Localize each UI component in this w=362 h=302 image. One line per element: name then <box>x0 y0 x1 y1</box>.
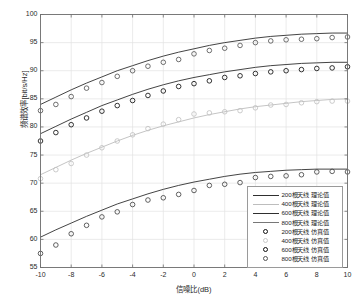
legend-marker-swatch <box>253 227 279 236</box>
series-marker <box>238 43 243 48</box>
legend-line-glyph <box>253 204 279 205</box>
legend-label: 800根天线 仿真值 <box>282 254 329 263</box>
x-tick-label: 4 <box>243 271 267 278</box>
x-tick-label: 6 <box>274 271 298 278</box>
y-tick-label: 75 <box>14 151 38 158</box>
series-marker <box>330 35 335 40</box>
series-marker <box>146 64 151 69</box>
legend-line-glyph <box>253 222 279 223</box>
series-marker <box>146 93 151 98</box>
legend-circle-glyph <box>263 238 268 243</box>
legend-circle-glyph <box>263 247 268 252</box>
x-tick-label: 8 <box>305 271 329 278</box>
y-tick-label: 95 <box>14 38 38 45</box>
legend-marker-swatch <box>253 246 279 255</box>
legend-label: 600根天线 仿真值 <box>282 245 329 254</box>
legend-line-swatch <box>253 191 279 200</box>
y-tick-label: 90 <box>14 66 38 73</box>
legend-row: 600根天线 仿真值 <box>248 246 342 255</box>
legend-row: 400根天线 仿真值 <box>248 237 342 246</box>
x-tick-label: -10 <box>29 271 53 278</box>
series-marker <box>207 183 212 188</box>
series-marker <box>299 172 304 177</box>
x-tick-label: 2 <box>213 271 237 278</box>
series-marker <box>268 174 273 179</box>
y-tick-label: 80 <box>14 122 38 129</box>
series-marker <box>146 198 151 203</box>
y-tick-label: 85 <box>14 94 38 101</box>
legend-circle-glyph <box>263 256 268 261</box>
legend-label: 800根天线 理论值 <box>282 218 329 227</box>
series-marker <box>115 103 120 108</box>
series-marker <box>54 102 59 107</box>
legend-circle-glyph <box>263 229 268 234</box>
legend-row: 200根天线 理论值 <box>248 191 342 200</box>
legend-marker-swatch <box>253 237 279 246</box>
legend-label: 200根天线 仿真值 <box>282 227 329 236</box>
series-marker <box>115 210 120 215</box>
series-marker <box>330 66 335 71</box>
legend-line-glyph <box>253 195 279 196</box>
x-tick-label: 10 <box>336 271 360 278</box>
series-marker <box>330 169 335 174</box>
series-marker <box>238 73 243 78</box>
legend-marker-swatch <box>253 255 279 264</box>
legend-line-swatch <box>253 200 279 209</box>
series-marker <box>299 100 304 105</box>
series-marker <box>176 84 181 89</box>
series-marker <box>176 57 181 62</box>
legend-row: 800根天线 仿真值 <box>248 255 342 264</box>
figure-canvas: 频谱效率[bit/s/Hz] 信噪比(dB) 55606570758085909… <box>0 0 362 302</box>
legend-label: 600根天线 理论值 <box>282 208 329 217</box>
series-marker <box>207 48 212 53</box>
series-marker <box>207 79 212 84</box>
series-marker <box>54 167 59 172</box>
x-tick-label: 0 <box>182 271 206 278</box>
x-tick-label: -8 <box>59 271 83 278</box>
legend-line-swatch <box>253 209 279 218</box>
legend-row: 200根天线 仿真值 <box>248 227 342 236</box>
series-marker <box>84 223 89 228</box>
legend-label: 400根天线 理论值 <box>282 199 329 208</box>
y-tick-label: 70 <box>14 179 38 186</box>
x-tick-label: -2 <box>151 271 175 278</box>
legend-row: 600根天线 理论值 <box>248 209 342 218</box>
legend-label: 400根天线 仿真值 <box>282 236 329 245</box>
y-tick-label: 60 <box>14 235 38 242</box>
series-marker <box>268 70 273 75</box>
series-marker <box>54 243 59 248</box>
legend-line-swatch <box>253 218 279 227</box>
series-marker <box>176 192 181 197</box>
legend-label: 200根天线 理论值 <box>282 190 329 199</box>
series-marker <box>84 116 89 121</box>
series-marker <box>54 130 59 135</box>
legend-row: 400根天线 理论值 <box>248 200 342 209</box>
series-marker <box>299 37 304 42</box>
series-marker <box>176 117 181 122</box>
series-marker <box>299 67 304 72</box>
series-marker <box>115 74 120 79</box>
x-tick-label: -6 <box>90 271 114 278</box>
y-tick-label: 55 <box>14 263 38 270</box>
series-marker <box>238 180 243 185</box>
x-tick-label: -4 <box>121 271 145 278</box>
series-marker <box>84 86 89 91</box>
y-tick-label: 65 <box>14 207 38 214</box>
chart-legend: 200根天线 理论值400根天线 理论值600根天线 理论值800根天线 理论值… <box>247 186 343 268</box>
x-axis-label: 信噪比(dB) <box>40 283 348 294</box>
legend-row: 800根天线 理论值 <box>248 218 342 227</box>
y-tick-label: 100 <box>14 10 38 17</box>
legend-line-glyph <box>253 213 279 214</box>
